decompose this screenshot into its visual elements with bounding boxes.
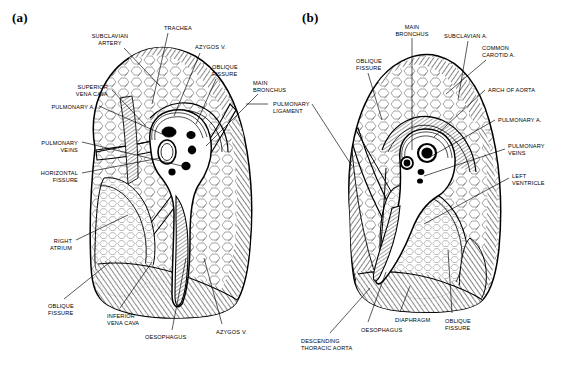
right-lung-label-main-bronchus: MAIN BRONCHUS (253, 80, 286, 93)
left-pulmonary-vein-upper (418, 169, 425, 175)
left-lung-label-oesophagus: OESOPHAGUS (361, 327, 402, 334)
right-lung-label-horizontal-fissure: HORIZONTAL FISSURE (41, 170, 78, 183)
left-pulmonary-vein-lower (417, 178, 423, 183)
right-lung-label-inferior-vena-cava: INFERIOR VENA CAVA (107, 313, 139, 326)
right-lung-label-oblique-fissure-bot: OBLIQUE FISSURE (48, 303, 74, 316)
right-lung-label-oblique-fissure-top: OBLIQUE FISSURE (212, 64, 238, 77)
figure-canvas: (a) (b) SUBCLAVIAN ARTERYTRACHEAAZYGOS V… (0, 0, 577, 367)
right-lung-label-right-atrium: RIGHT ATRIUM (50, 238, 72, 251)
right-lung-label-azygos-vein-top: AZYGOS V. (195, 44, 226, 51)
panel-letter-a: (a) (12, 10, 28, 26)
left-lung-label-oblique-fissure-bot: OBLIQUE FISSURE (445, 318, 471, 331)
left-lung-label-subclavian-artery: SUBCLAVIAN A. (444, 33, 488, 40)
right-lung-figure (64, 33, 268, 330)
right-pulmonary-vein-lower (181, 162, 190, 170)
right-lung-label-trachea: TRACHEA (164, 25, 192, 32)
right-lung-label-superior-vena-cava: SUPERIOR VENA CAVA (76, 84, 108, 97)
left-lung-label-oblique-fissure-top: OBLIQUE FISSURE (356, 58, 382, 71)
right-lung-label-pulmonary-artery: PULMONARY A. (51, 104, 95, 111)
left-lung-label-common-carotid-artery: COMMON CAROTID A. (482, 45, 515, 58)
left-lung-label-diaphragm: DIAPHRAGM (395, 317, 430, 324)
left-lung-figure (312, 38, 509, 333)
left-lung-label-left-ventricle: LEFT VENTRICLE (512, 173, 545, 186)
right-pulmonary-vein-upper (186, 131, 195, 139)
shared-label-pulmonary-ligament: PULMONARY LIGAMENT (273, 101, 310, 114)
left-lung-label-descending-thoracic-aorta: DESCENDING THORACIC AORTA (301, 338, 352, 351)
right-lung-label-pulmonary-veins: PULMONARY VEINS (41, 140, 78, 153)
right-lung-label-azygos-vein-bottom: AZYGOS V. (216, 329, 247, 336)
left-lung-label-main-bronchus: MAIN BRONCHUS (395, 24, 428, 37)
right-lung-label-oesophagus: OESOPHAGUS (145, 334, 186, 341)
right-pulmonary-artery-lumen (162, 127, 176, 137)
right-pulmonary-vein-mid (188, 146, 196, 155)
left-lung-label-pulmonary-artery: PULMONARY A. (498, 117, 542, 124)
panel-letter-b: (b) (302, 10, 319, 26)
left-lung-label-pulmonary-veins: PULMONARY VEINS (508, 143, 545, 156)
leader-pulmonary-ligament-b (312, 104, 352, 166)
right-bronchial-vessel (168, 169, 175, 176)
right-lung-label-subclavian-artery: SUBCLAVIAN ARTERY (92, 33, 129, 46)
left-lung-label-arch-of-aorta: ARCH OF AORTA (488, 87, 535, 94)
